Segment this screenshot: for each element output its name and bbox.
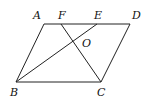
diagram-svg: A F E D O B C: [0, 0, 151, 105]
label-E: E: [93, 9, 102, 22]
geometry-diagram: A F E D O B C: [0, 0, 151, 105]
label-A: A: [32, 9, 41, 22]
segment-AB: [16, 24, 44, 82]
segment-BE: [16, 24, 97, 82]
label-F: F: [57, 9, 66, 22]
segments: [16, 24, 130, 82]
label-C: C: [97, 86, 106, 99]
point-labels: A F E D O B C: [9, 9, 141, 99]
segment-CF: [61, 24, 101, 82]
label-O: O: [82, 37, 91, 50]
segment-CD: [101, 24, 130, 82]
label-B: B: [9, 86, 18, 99]
label-D: D: [131, 9, 141, 22]
